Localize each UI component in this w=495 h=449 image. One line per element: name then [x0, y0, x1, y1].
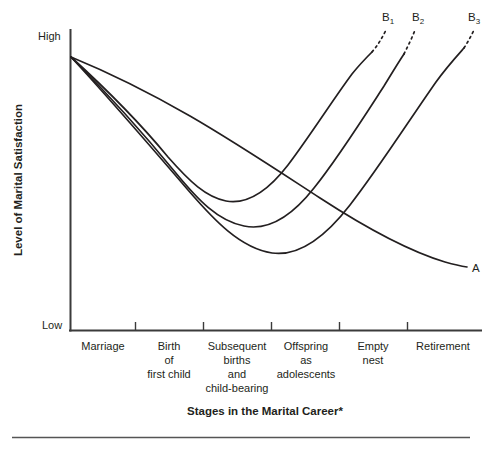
x-cat-3-line-2: births: [224, 354, 251, 366]
x-cat-3-line-4: child-bearing: [206, 382, 269, 394]
x-cat-5-line-2: nest: [363, 354, 384, 366]
x-cat-4-line-1: Offspring: [284, 340, 328, 352]
x-cat-3-line-3: and: [228, 368, 246, 380]
x-cat-4-line-3: adolescents: [277, 368, 336, 380]
curve-b3-subscript: 3: [476, 17, 481, 26]
figure-marital-satisfaction: A B1 B2 B3 High Low Level of Marital Sat…: [0, 0, 495, 449]
x-cat-4-line-2: as: [300, 354, 312, 366]
x-axis-category-marriage: Marriage: [81, 340, 124, 352]
y-axis-high-label: High: [38, 30, 61, 42]
x-axis-category-empty-nest: Empty nest: [357, 340, 389, 366]
y-axis-scale-labels: High Low: [38, 30, 62, 331]
curve-b3-path: [71, 48, 464, 253]
curve-b3-label: B3: [468, 11, 481, 26]
x-axis-ticks: [136, 322, 408, 330]
curve-b1-subscript: 1: [390, 17, 395, 26]
curve-b1-dotted-extension: [372, 30, 386, 52]
curve-b1-path: [71, 52, 372, 202]
x-axis-category-birth-of-first-child: Birth of first child: [147, 340, 190, 380]
x-cat-2-line-1: Birth: [158, 340, 181, 352]
x-cat-3-line-1: Subsequent: [208, 340, 267, 352]
y-axis-title: Level of Marital Satisfaction: [12, 104, 24, 256]
x-axis-category-retirement: Retirement: [416, 340, 470, 352]
curve-b2-dotted-extension: [404, 30, 415, 54]
curve-a-path: [71, 57, 467, 267]
curve-b1-label: B1: [382, 11, 395, 26]
curve-b2-subscript: 2: [420, 17, 425, 26]
x-axis-category-offspring-as-adolescents: Offspring as adolescents: [277, 340, 336, 380]
x-axis-category-subsequent-births: Subsequent births and child-bearing: [206, 340, 269, 394]
x-cat-2-line-3: first child: [147, 368, 190, 380]
x-axis-title: Stages in the Marital Career*: [187, 405, 343, 417]
curve-b2-label: B2: [412, 11, 425, 26]
curve-end-labels: A B1 B2 B3: [382, 11, 481, 274]
x-axis-category-labels: Marriage Birth of first child Subsequent…: [81, 340, 470, 394]
curve-a-label: A: [472, 262, 480, 274]
chart-canvas: A B1 B2 B3 High Low Level of Marital Sat…: [0, 0, 495, 449]
x-cat-2-line-2: of: [164, 354, 174, 366]
curves-group: [71, 30, 474, 267]
x-cat-6-line-1: Retirement: [416, 340, 470, 352]
x-cat-5-line-1: Empty: [357, 340, 389, 352]
x-cat-1-line-1: Marriage: [81, 340, 124, 352]
y-axis-low-label: Low: [42, 319, 62, 331]
curve-b3-dotted-extension: [464, 30, 474, 48]
